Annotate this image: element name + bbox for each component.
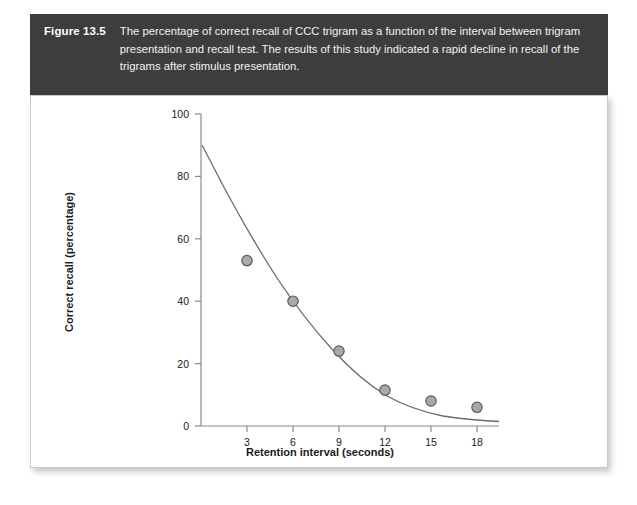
y-tick-marks (195, 114, 201, 426)
y-tick-label-60: 60 (159, 233, 189, 245)
x-axis-title: Retention interval (seconds) (31, 446, 609, 458)
data-point-marker (242, 255, 252, 265)
caption-row: Figure 13.5 The percentage of correct re… (44, 23, 594, 76)
chart-plot-area: 100 80 60 40 20 0 3 6 9 12 15 18 Retenti… (31, 96, 609, 469)
figure-container: Figure 13.5 The percentage of correct re… (0, 0, 637, 505)
y-tick-label-80: 80 (159, 170, 189, 182)
y-tick-label-0: 0 (159, 420, 189, 432)
figure-caption-text: The percentage of correct recall of CCC … (120, 23, 594, 76)
data-point-marker (334, 346, 344, 356)
chart-svg (31, 96, 609, 469)
figure-plot-card: 100 80 60 40 20 0 3 6 9 12 15 18 Retenti… (30, 95, 608, 468)
y-tick-label-100: 100 (159, 108, 189, 120)
y-tick-label-40: 40 (159, 295, 189, 307)
figure-caption-header: Figure 13.5 The percentage of correct re… (30, 14, 608, 95)
y-axis-title: Correct recall (percentage) (63, 162, 75, 362)
data-point-marker (288, 296, 298, 306)
x-tick-marks (247, 426, 477, 432)
data-point-marker (380, 385, 390, 395)
figure-number-label: Figure 13.5 (44, 23, 120, 40)
data-point-marker (472, 402, 482, 412)
fit-curve-line (202, 145, 499, 422)
data-point-marker (426, 396, 436, 406)
y-tick-label-20: 20 (159, 358, 189, 370)
